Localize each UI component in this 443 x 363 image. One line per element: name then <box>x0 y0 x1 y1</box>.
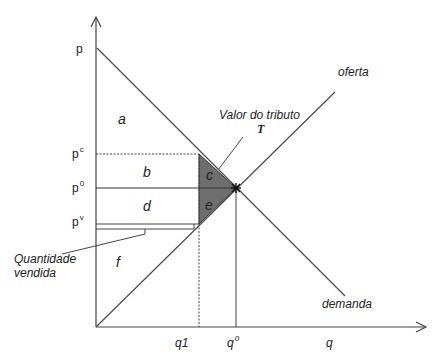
price-seller-label: pv <box>72 216 84 228</box>
price-axis-label: p <box>76 43 83 55</box>
pc-base: p <box>72 147 79 161</box>
demand-curve <box>97 48 345 296</box>
q1-label: q1 <box>175 337 188 349</box>
quantity-sold-label-line2: vendida <box>14 267 56 279</box>
pc-sup: c <box>80 145 84 154</box>
quantity-axis-label: q <box>326 337 333 349</box>
pv-sup: v <box>80 213 84 222</box>
price-equilibrium-label: p0 <box>72 182 84 194</box>
q0-base: q <box>227 336 234 350</box>
tax-value-label: Valor do tributo <box>219 109 300 121</box>
quantity-sold-label-line1: Quantidade <box>14 253 76 265</box>
area-e-label: e <box>205 198 213 212</box>
q0-label: q0 <box>227 337 239 349</box>
area-a-label: a <box>118 112 126 126</box>
pv-base: p <box>72 215 79 229</box>
area-b-label: b <box>143 165 151 179</box>
equilibrium-point-icon <box>231 183 241 193</box>
price-consumer-label: pc <box>72 148 84 160</box>
deadweight-loss-triangle <box>199 154 236 224</box>
quantity-sold-pointer <box>62 229 145 254</box>
demand-label: demanda <box>322 298 372 310</box>
area-c-label: c <box>206 168 213 182</box>
area-d-label: d <box>143 199 151 213</box>
p0-sup: 0 <box>80 179 84 188</box>
q0-sup: 0 <box>235 334 239 343</box>
supply-label: oferta <box>338 66 369 78</box>
supply-demand-diagram <box>0 0 443 363</box>
tax-symbol: T <box>257 123 264 135</box>
supply-curve <box>96 92 335 327</box>
p0-base: p <box>72 181 79 195</box>
area-f-label: f <box>116 255 120 269</box>
tax-pointer-line <box>218 137 243 170</box>
